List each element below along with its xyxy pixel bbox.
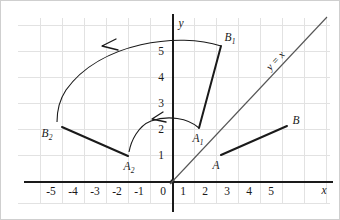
x-tick-1: 1 [180,185,186,197]
y-tick-2: 2 [158,123,164,135]
x-tick-0: 0 [160,185,166,197]
x-tick-4: 4 [246,185,252,197]
x-tick--3: -3 [90,185,100,197]
x-tick-3: 3 [224,185,230,197]
y-tick-3: 3 [158,97,164,109]
point-label-B1-sub: 1 [232,37,236,46]
coordinate-plane-figure: y x -5 -4 -3 -2 -1 0 1 2 3 4 5 1 2 3 4 5… [0,0,340,220]
point-label-A1-sub: 1 [200,138,204,147]
x-axis-label: x [320,184,327,196]
point-label-B2-sub: 2 [49,133,53,142]
point-label-A: A [211,159,220,171]
x-tick--1: -1 [134,185,144,197]
y-tick-4: 4 [158,71,164,83]
point-label-B2-base: B [42,127,49,139]
point-label-B: B [292,114,299,126]
y-tick-5: 5 [158,45,164,57]
y-axis-label: y [177,17,184,30]
x-tick-2: 2 [202,185,208,197]
point-label-B1-base: B [225,31,232,43]
x-tick--4: -4 [68,185,78,197]
x-tick--2: -2 [112,185,122,197]
y-tick-1: 1 [158,149,164,161]
x-tick-5: 5 [268,185,274,197]
point-label-A2-sub: 2 [131,166,135,175]
x-tick--5: -5 [46,185,56,197]
